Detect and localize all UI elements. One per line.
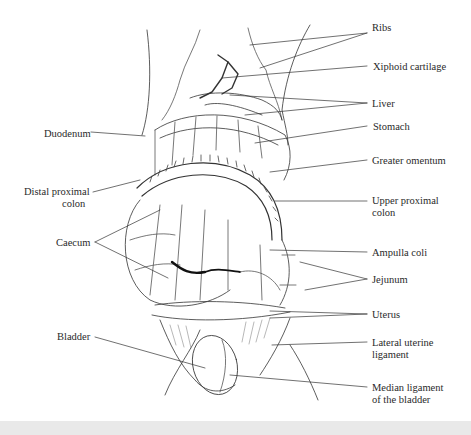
label-upper-proximal-colon: Upper proximal xyxy=(372,195,439,207)
label-liver: Liver xyxy=(372,98,395,110)
label-median-ligament-bladder-line2: of the bladder xyxy=(372,394,430,406)
label-distal-proximal-colon: Distal proximal xyxy=(24,186,90,198)
label-caecum: Caecum xyxy=(56,237,90,249)
label-jejunum: Jejunum xyxy=(372,274,408,286)
label-xiphoid-cartilage: Xiphoid cartilage xyxy=(373,61,446,73)
label-stomach: Stomach xyxy=(373,121,410,133)
label-uterus: Uterus xyxy=(372,309,400,321)
label-upper-proximal-colon-line2: colon xyxy=(372,207,395,219)
anatomy-diagram: Ribs Xiphoid cartilage Liver Stomach Gre… xyxy=(0,0,471,435)
label-bladder: Bladder xyxy=(57,331,90,343)
label-lateral-uterine-ligament: Lateral uterine xyxy=(372,337,434,349)
label-median-ligament-bladder: Median ligament xyxy=(372,382,443,394)
label-distal-proximal-colon-line2: colon xyxy=(62,198,85,210)
label-ribs: Ribs xyxy=(372,22,391,34)
label-lateral-uterine-ligament-line2: ligament xyxy=(372,349,409,361)
label-ampulla-coli: Ampulla coli xyxy=(372,247,427,259)
label-duodenum: Duodenum xyxy=(44,128,91,140)
bottom-band xyxy=(0,421,471,435)
label-greater-omentum: Greater omentum xyxy=(372,155,446,167)
